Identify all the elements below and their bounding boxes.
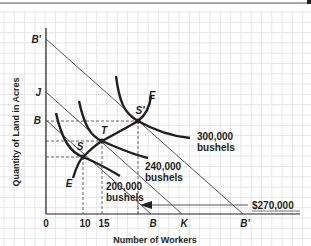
x-tick-Bprime: B' (240, 218, 250, 229)
y-axis-title: Quantity of Land in Acres (11, 77, 21, 186)
isoquant-240000-label-unit: bushels (145, 172, 183, 183)
label-Sprime: S' (135, 105, 145, 116)
x-tick-B: B (149, 218, 156, 229)
isoquant-240000-label-value: 240,000 (145, 161, 182, 172)
label-S: S (77, 141, 84, 152)
isocost-line-BprimeBprime (46, 39, 243, 214)
isoquant-300000-label-unit: bushels (197, 142, 235, 153)
label-E-top: E (149, 90, 156, 101)
label-E-bottom: E (66, 178, 73, 189)
cost-annotation: $270,000 (252, 200, 294, 211)
label-T: T (101, 125, 108, 136)
point-T (100, 139, 105, 144)
x-tick-10: 10 (79, 218, 91, 229)
x-axis-title: Number of Workers (113, 235, 196, 245)
isoquant-300000-label-value: 300,000 (197, 131, 234, 142)
isoquant-200000-label-unit: bushels (106, 192, 144, 203)
x-tick-0: 0 (43, 218, 49, 229)
y-tick-B: B (34, 115, 41, 126)
point-S (81, 155, 86, 160)
y-tick-Bprime: B' (31, 34, 41, 45)
top-rule-end-mark (307, 0, 311, 4)
isoquant-200000-label-value: 200,000 (106, 181, 143, 192)
x-tick-K: K (180, 218, 188, 229)
y-tick-J: J (35, 87, 41, 98)
isoquant-diagram: 0 10 15 B K B' B' J B Number of Workers … (0, 0, 311, 246)
x-tick-15: 15 (98, 218, 110, 229)
point-Sprime (136, 119, 141, 124)
